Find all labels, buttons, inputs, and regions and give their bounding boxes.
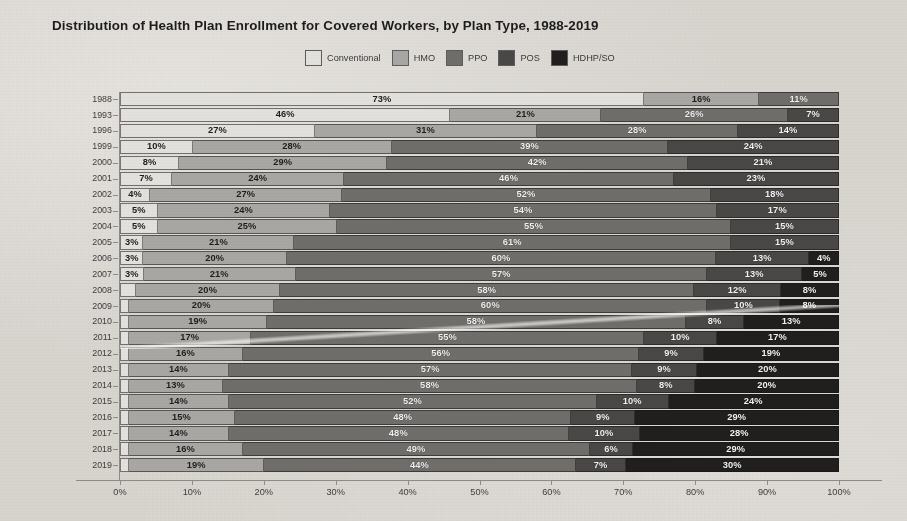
bar-segment-ppo: 54% xyxy=(330,203,717,217)
bar-segment-pos: 12% xyxy=(694,283,781,297)
bar-value-label: 21% xyxy=(754,158,773,167)
x-axis-tick xyxy=(120,480,121,485)
x-axis-tick xyxy=(551,480,552,485)
bar-value-label: 25% xyxy=(237,222,256,231)
bar-value-label: 3% xyxy=(125,238,139,247)
bar-segment-pos: 6% xyxy=(590,442,633,456)
y-axis-label-2015: 2015 xyxy=(92,397,112,406)
bar-segment-hmo: 20% xyxy=(136,283,280,297)
bar-segment-hmo: 19% xyxy=(129,315,267,329)
bar-value-label: 26% xyxy=(685,110,704,119)
bar-value-label: 31% xyxy=(416,126,435,135)
bar-segment-hmo: 24% xyxy=(172,172,344,186)
bar-segment-conventional xyxy=(120,410,129,424)
bar-value-label: 19% xyxy=(761,349,780,358)
legend-swatch-icon xyxy=(446,50,463,66)
y-axis-label-1999: 1999 xyxy=(92,142,112,151)
bar-value-label: 49% xyxy=(407,445,426,454)
bar-row-2014: 13%58%8%20% xyxy=(120,379,839,393)
legend-swatch-icon xyxy=(498,50,515,66)
bar-segment-conventional xyxy=(120,347,129,361)
y-axis-tick xyxy=(113,370,118,371)
bar-segment-pos: 7% xyxy=(576,458,626,472)
y-axis-label-1993: 1993 xyxy=(92,111,112,120)
bar-segment-hmo: 29% xyxy=(179,156,387,170)
bar-segment-pos: 10% xyxy=(569,426,641,440)
bar-segment-hmo: 31% xyxy=(315,124,537,138)
bar-value-label: 18% xyxy=(765,190,784,199)
bar-value-label: 20% xyxy=(757,381,776,390)
bar-segment-hmo: 28% xyxy=(193,140,392,154)
bar-value-label: 52% xyxy=(517,190,536,199)
bar-segment-hdhp-so: 29% xyxy=(635,410,839,424)
bar-segment-pos: 24% xyxy=(668,140,839,154)
bar-value-label: 15% xyxy=(172,413,191,422)
bar-segment-ppo: 52% xyxy=(342,188,711,202)
bar-value-label: 8% xyxy=(802,301,816,310)
bar-value-label: 24% xyxy=(248,174,267,183)
bar-value-label: 28% xyxy=(628,126,647,135)
y-axis-tick xyxy=(113,147,118,148)
y-axis-label-2009: 2009 xyxy=(92,302,112,311)
bar-segment-hdhp-so: 20% xyxy=(695,379,839,393)
x-axis-label-80: 80% xyxy=(686,487,704,497)
bar-value-label: 29% xyxy=(273,158,292,167)
x-axis-label-0: 0% xyxy=(113,487,126,497)
bar-segment-ppo: 48% xyxy=(229,426,569,440)
x-axis-label-20: 20% xyxy=(255,487,273,497)
y-axis-label-2014: 2014 xyxy=(92,381,112,390)
bar-row-2010: 19%58%8%13% xyxy=(120,315,839,329)
bar-value-label: 8% xyxy=(143,158,157,167)
y-axis-tick xyxy=(113,402,118,403)
bar-row-2007: 3%21%57%13%5% xyxy=(120,267,839,281)
bar-value-label: 61% xyxy=(503,238,522,247)
x-axis-tick xyxy=(839,480,840,485)
bar-segment-hdhp-so: 28% xyxy=(640,426,839,440)
bar-row-2019: 19%44%7%30% xyxy=(120,458,839,472)
bar-value-label: 58% xyxy=(477,286,496,295)
bar-segment-conventional: 3% xyxy=(120,235,143,249)
bar-segment-pos: 10% xyxy=(644,331,716,345)
bar-segment-conventional xyxy=(120,379,129,393)
x-axis-label-10: 10% xyxy=(183,487,201,497)
bar-value-label: 21% xyxy=(516,110,535,119)
bar-value-label: 57% xyxy=(492,270,511,279)
bar-value-label: 28% xyxy=(282,142,301,151)
bar-segment-ppo: 42% xyxy=(387,156,688,170)
bar-segment-conventional xyxy=(120,363,129,377)
bar-segment-conventional xyxy=(120,331,129,345)
bar-value-label: 3% xyxy=(125,270,139,279)
bar-segment-ppo: 49% xyxy=(243,442,590,456)
bar-value-label: 57% xyxy=(421,365,440,374)
legend-swatch-icon xyxy=(305,50,322,66)
bar-value-label: 42% xyxy=(528,158,547,167)
bar-value-label: 11% xyxy=(789,95,807,104)
bar-row-2017: 14%48%10%28% xyxy=(120,426,839,440)
y-axis-label-2010: 2010 xyxy=(92,317,112,326)
bar-segment-ppo: 39% xyxy=(392,140,669,154)
bar-segment-ppo: 52% xyxy=(229,394,597,408)
bar-value-label: 39% xyxy=(520,142,539,151)
bar-segment-conventional: 8% xyxy=(120,156,179,170)
bar-row-2011: 17%55%10%17% xyxy=(120,331,839,345)
legend-item-hmo: HMO xyxy=(392,50,435,66)
bar-segment-hmo: 14% xyxy=(129,394,229,408)
bar-value-label: 13% xyxy=(745,270,764,279)
bar-segment-pos: 14% xyxy=(738,124,839,138)
bar-segment-ppo: 57% xyxy=(229,363,632,377)
y-axis-tick xyxy=(113,179,118,180)
bar-segment-hmo: 19% xyxy=(129,458,264,472)
bar-value-label: 13% xyxy=(753,254,772,263)
bar-value-label: 73% xyxy=(373,95,392,104)
bar-value-label: 3% xyxy=(125,254,139,263)
bar-value-label: 46% xyxy=(499,174,518,183)
bar-segment-pos: 7% xyxy=(788,108,839,122)
bar-segment-hdhp-so: 17% xyxy=(717,331,839,345)
bar-value-label: 14% xyxy=(779,126,798,135)
x-axis-labels: 0%10%20%30%40%50%60%70%80%90%100% xyxy=(0,487,907,507)
y-axis-label-2019: 2019 xyxy=(92,461,112,470)
bar-row-2008: 20%58%12%8% xyxy=(120,283,839,297)
x-axis-label-40: 40% xyxy=(398,487,416,497)
bar-value-label: 7% xyxy=(594,461,608,470)
legend-label: Conventional xyxy=(327,53,381,63)
